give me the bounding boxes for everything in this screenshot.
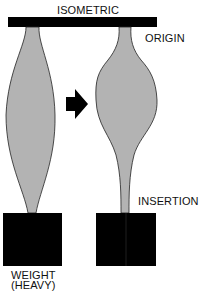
muscle-right bbox=[96, 27, 157, 213]
origin-label: ORIGIN bbox=[145, 32, 185, 44]
weight-heavy-label: (HEAVY) bbox=[11, 279, 56, 291]
arrow-icon bbox=[66, 89, 88, 119]
muscle-left bbox=[6, 27, 55, 213]
isometric-label: ISOMETRIC bbox=[57, 4, 119, 16]
isometric-bar bbox=[8, 17, 157, 27]
insertion-label: INSERTION bbox=[138, 195, 199, 207]
weight-block-left bbox=[3, 213, 62, 266]
